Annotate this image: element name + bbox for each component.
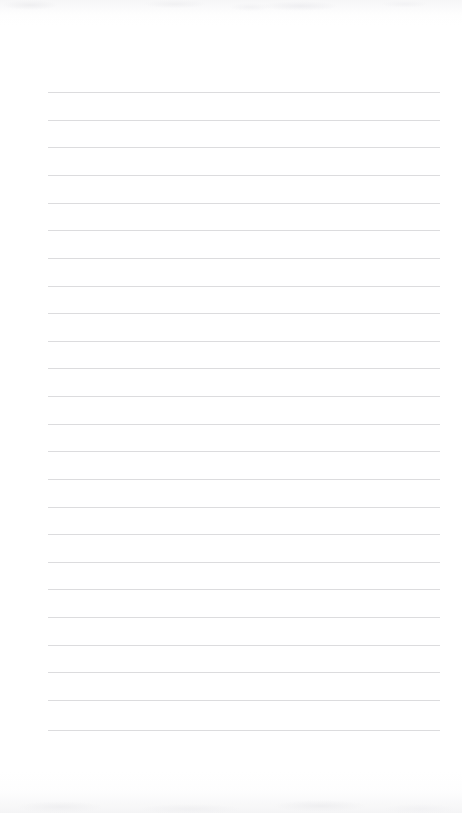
- writing-line-10[interactable]: [48, 315, 440, 341]
- writing-line-21[interactable]: [48, 619, 440, 645]
- ruled-line-20: [48, 617, 440, 618]
- writing-line-22[interactable]: [48, 646, 440, 672]
- writing-line-11[interactable]: [48, 342, 440, 368]
- writing-line-4[interactable]: [48, 149, 440, 175]
- writing-line-6[interactable]: [48, 204, 440, 230]
- writing-line-12[interactable]: [48, 370, 440, 396]
- ruled-line-22: [48, 672, 440, 673]
- ruled-line-17: [48, 534, 440, 535]
- writing-line-23[interactable]: [48, 674, 440, 700]
- ruled-lines-area[interactable]: [0, 0, 462, 813]
- ruled-line-6: [48, 230, 440, 231]
- ruled-line-24: [48, 730, 440, 731]
- lined-paper-page: [0, 0, 462, 813]
- ruled-line-19: [48, 589, 440, 590]
- writing-line-18[interactable]: [48, 536, 440, 562]
- writing-line-19[interactable]: [48, 563, 440, 589]
- writing-line-3[interactable]: [48, 121, 440, 147]
- writing-line-9[interactable]: [48, 287, 440, 313]
- ruled-line-23: [48, 700, 440, 701]
- writing-line-8[interactable]: [48, 260, 440, 286]
- ruled-line-12: [48, 396, 440, 397]
- writing-line-24[interactable]: [48, 704, 440, 730]
- ruled-line-9: [48, 313, 440, 314]
- writing-line-14[interactable]: [48, 425, 440, 451]
- writing-line-15[interactable]: [48, 453, 440, 479]
- ruled-line-11: [48, 368, 440, 369]
- writing-line-16[interactable]: [48, 481, 440, 507]
- ruled-line-14: [48, 451, 440, 452]
- writing-line-17[interactable]: [48, 508, 440, 534]
- writing-line-1[interactable]: [48, 66, 440, 92]
- ruled-line-7: [48, 258, 440, 259]
- ruled-line-3: [48, 147, 440, 148]
- ruled-line-15: [48, 479, 440, 480]
- writing-line-20[interactable]: [48, 591, 440, 617]
- writing-line-2[interactable]: [48, 94, 440, 120]
- ruled-line-1: [48, 92, 440, 93]
- writing-line-13[interactable]: [48, 398, 440, 424]
- writing-line-7[interactable]: [48, 232, 440, 258]
- ruled-line-4: [48, 175, 440, 176]
- writing-line-5[interactable]: [48, 177, 440, 203]
